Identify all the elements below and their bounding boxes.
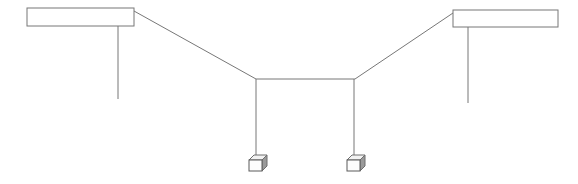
right-diagonal-cable [355, 13, 453, 79]
left-diagonal-cable [134, 11, 256, 79]
right-support-beam [453, 10, 558, 27]
diagram-canvas [0, 0, 578, 184]
right-load-cube-front-face [347, 160, 360, 171]
left-support-beam [27, 8, 134, 26]
right-load-cube [347, 155, 365, 171]
line-diagram [0, 0, 578, 184]
left-load-cube [249, 155, 267, 171]
left-load-cube-front-face [249, 160, 262, 171]
